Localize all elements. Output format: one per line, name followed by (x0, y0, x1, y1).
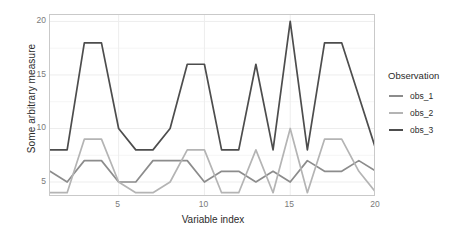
x-axis-title: Variable index (58, 214, 368, 225)
y-tick-label: 15 (24, 70, 46, 79)
legend-title: Observation (388, 70, 463, 81)
legend-item-obs-2[interactable]: obs_2 (388, 105, 463, 120)
y-tick-label: 10 (24, 123, 46, 132)
y-axis-tick-labels: 20 15 10 5 (20, 0, 46, 233)
legend: Observation obs_1 obs_2 obs_3 (388, 70, 463, 139)
series-line-obs-3 (50, 21, 375, 149)
legend-key-line-icon (388, 107, 404, 118)
legend-item-label: obs_1 (410, 91, 433, 101)
legend-item-label: obs_3 (410, 125, 433, 135)
legend-key-line-icon (388, 124, 404, 135)
x-tick-label: 20 (363, 200, 387, 209)
x-tick-label: 15 (277, 200, 301, 209)
chart-figure: Some arbitrary measure 20 15 10 5 5 10 1… (0, 0, 463, 233)
x-tick-label: 5 (106, 200, 130, 209)
legend-item-obs-3[interactable]: obs_3 (388, 122, 463, 137)
y-tick-label: 20 (24, 16, 46, 25)
legend-item-label: obs_2 (410, 108, 433, 118)
plot-svg (50, 15, 375, 196)
y-tick-label: 5 (24, 177, 46, 186)
legend-key-line-icon (388, 90, 404, 101)
plot-panel (49, 14, 375, 196)
legend-item-obs-1[interactable]: obs_1 (388, 88, 463, 103)
x-tick-label: 10 (191, 200, 215, 209)
data-series-layer (50, 21, 375, 192)
